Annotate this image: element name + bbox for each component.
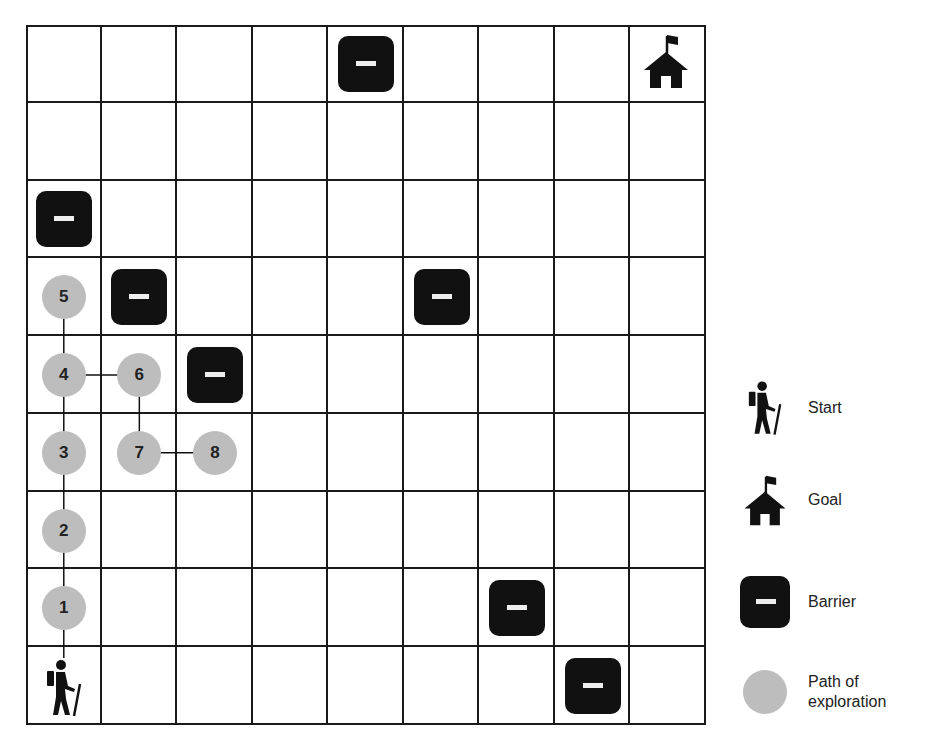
grid-cell — [404, 414, 480, 492]
barrier-icon — [338, 36, 394, 92]
grid-cell — [328, 647, 404, 725]
grid-cell — [328, 258, 404, 336]
grid-cell — [555, 103, 631, 181]
grid-cell — [253, 258, 329, 336]
legend-label-goal: Goal — [808, 490, 842, 510]
grid-cell — [253, 569, 329, 647]
legend-item-barrier: Barrier — [740, 574, 856, 630]
legend-label-start: Start — [808, 398, 842, 418]
grid-cell — [479, 258, 555, 336]
barrier-icon-wrap — [740, 574, 790, 630]
grid-cell — [404, 336, 480, 414]
grid-cell — [328, 336, 404, 414]
grid-cell — [404, 181, 480, 259]
grid-cell — [555, 492, 631, 570]
grid-cell — [253, 25, 329, 103]
legend: Start Goal Barrier Path of exploration — [740, 380, 930, 730]
path-node: 1 — [42, 586, 86, 630]
grid-cell — [479, 647, 555, 725]
grid-cell — [328, 103, 404, 181]
house-flag-icon — [642, 32, 690, 94]
grid-cell — [555, 25, 631, 103]
grid-cell — [102, 492, 178, 570]
grid-cell — [479, 336, 555, 414]
grid-cell — [404, 103, 480, 181]
grid-cell — [479, 103, 555, 181]
legend-item-start: Start — [740, 380, 842, 436]
grid-cell — [479, 25, 555, 103]
grid-cell — [328, 492, 404, 570]
grid-cell — [253, 336, 329, 414]
grid-cell — [177, 647, 253, 725]
legend-label-path: Path of exploration — [808, 672, 886, 712]
grid-cell — [177, 492, 253, 570]
grid-cell — [102, 569, 178, 647]
hiker-icon — [44, 659, 84, 721]
grid-cell — [102, 181, 178, 259]
grid-cell — [404, 569, 480, 647]
grid-cell — [555, 414, 631, 492]
grid-cell — [328, 414, 404, 492]
grid-cell — [253, 492, 329, 570]
grid-cell — [555, 181, 631, 259]
grid-cell — [404, 25, 480, 103]
grid-cell — [177, 103, 253, 181]
barrier-icon — [565, 658, 621, 714]
grid-cell — [177, 258, 253, 336]
grid-cell — [630, 414, 706, 492]
legend-item-path: Path of exploration — [740, 664, 886, 720]
path-node: 2 — [42, 509, 86, 553]
grid-cell — [479, 181, 555, 259]
legend-label-path-line1: Path of — [808, 673, 859, 690]
barrier-icon — [111, 269, 167, 325]
grid-cell — [404, 647, 480, 725]
grid-cell — [26, 25, 102, 103]
barrier-icon — [187, 347, 243, 403]
path-node: 3 — [42, 431, 86, 475]
path-node: 6 — [117, 353, 161, 397]
grid-cell — [404, 492, 480, 570]
grid-cell — [630, 492, 706, 570]
barrier-icon — [414, 269, 470, 325]
grid-cell — [253, 181, 329, 259]
grid-cell — [177, 25, 253, 103]
path-node: 4 — [42, 353, 86, 397]
grid-cell — [479, 492, 555, 570]
barrier-icon — [740, 576, 790, 628]
barrier-icon — [36, 191, 92, 247]
gray-circle-icon — [743, 670, 787, 714]
grid-cell — [177, 181, 253, 259]
legend-label-path-line2: exploration — [808, 693, 886, 710]
hiker-icon — [740, 380, 790, 436]
grid-cell — [26, 103, 102, 181]
path-node: 8 — [193, 431, 237, 475]
barrier-icon — [489, 580, 545, 636]
grid-cell — [328, 181, 404, 259]
grid-cell — [253, 414, 329, 492]
grid-cell — [630, 336, 706, 414]
grid-cell — [177, 569, 253, 647]
grid-world: 12345678 — [26, 25, 706, 725]
path-node: 7 — [117, 431, 161, 475]
legend-item-goal: Goal — [740, 472, 842, 528]
house-flag-icon — [740, 472, 790, 528]
grid-cell — [102, 647, 178, 725]
grid-cell — [555, 258, 631, 336]
grid-cell — [630, 181, 706, 259]
gray-circle-icon-wrap — [740, 664, 790, 720]
grid-cell — [253, 103, 329, 181]
grid-cell — [555, 336, 631, 414]
grid-cell — [102, 103, 178, 181]
grid-cell — [555, 569, 631, 647]
grid-cell — [102, 25, 178, 103]
grid-cell — [253, 647, 329, 725]
grid-cell — [630, 103, 706, 181]
grid-cell — [479, 414, 555, 492]
grid-cell — [630, 569, 706, 647]
grid-cell — [630, 647, 706, 725]
path-node: 5 — [42, 275, 86, 319]
grid-cell — [630, 258, 706, 336]
legend-label-barrier: Barrier — [808, 592, 856, 612]
grid-cell — [328, 569, 404, 647]
